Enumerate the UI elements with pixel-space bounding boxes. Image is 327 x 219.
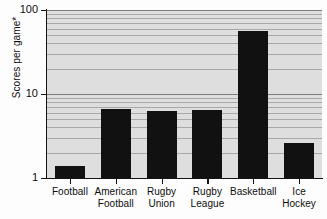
- y-tick-mark: [41, 94, 46, 95]
- gridline: [47, 98, 322, 99]
- gridline: [47, 35, 322, 36]
- plot-area: [47, 10, 322, 178]
- bar-basketball[interactable]: [238, 31, 268, 178]
- x-tick-mark: [299, 179, 300, 184]
- gridline: [47, 54, 322, 55]
- y-tick-label: 10: [26, 88, 38, 99]
- bar-football[interactable]: [55, 166, 85, 178]
- category-label-ice-hockey: Ice Hockey: [272, 186, 326, 209]
- gridline: [47, 10, 322, 11]
- gridline: [47, 138, 322, 139]
- y-tick-mark: [41, 10, 46, 11]
- gridline: [47, 127, 322, 128]
- gridline: [47, 102, 322, 103]
- x-tick-mark: [70, 179, 71, 184]
- x-tick-mark: [253, 179, 254, 184]
- bar-chart: Scores per game* 100101 FootballAmerican…: [0, 0, 327, 219]
- gridline: [47, 69, 322, 70]
- gridline: [47, 43, 322, 44]
- gridline: [47, 29, 322, 30]
- gridline: [47, 18, 322, 19]
- gridline: [47, 119, 322, 120]
- gridline: [47, 14, 322, 15]
- y-tick-label: 100: [20, 4, 38, 15]
- y-axis-title: Scores per game*: [11, 0, 22, 118]
- gridline: [47, 107, 322, 108]
- y-tick-mark: [41, 178, 46, 179]
- bar-rugby-league[interactable]: [192, 110, 222, 178]
- x-tick-mark: [207, 179, 208, 184]
- x-tick-mark: [162, 179, 163, 184]
- y-tick-label: 1: [32, 172, 38, 183]
- x-axis-line: [46, 178, 323, 179]
- gridline: [47, 113, 322, 114]
- x-tick-mark: [116, 179, 117, 184]
- gridline: [47, 153, 322, 154]
- bar-ice-hockey[interactable]: [284, 143, 314, 178]
- gridline: [47, 23, 322, 24]
- gridline: [47, 94, 322, 95]
- bar-rugby-union[interactable]: [147, 111, 177, 178]
- bar-american-football[interactable]: [101, 109, 131, 178]
- y-axis-line: [46, 9, 47, 179]
